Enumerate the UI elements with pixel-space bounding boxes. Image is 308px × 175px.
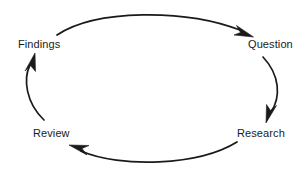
arrow-question-to-research bbox=[263, 57, 277, 123]
arrow-review-to-findings-path bbox=[27, 65, 44, 120]
arrow-research-to-review-path bbox=[81, 142, 237, 162]
node-label-research: Research bbox=[237, 127, 285, 140]
arrow-question-to-research-path bbox=[263, 57, 277, 112]
arrow-findings-to-question bbox=[57, 15, 254, 37]
arrow-review-to-findings bbox=[25, 53, 44, 120]
arrow-question-to-research-head bbox=[266, 105, 277, 124]
arrow-findings-to-question-head bbox=[234, 26, 254, 38]
cycle-arrows-group bbox=[0, 0, 308, 175]
node-label-review: Review bbox=[33, 127, 70, 140]
research-cycle-diagram: Findings Question Research Review bbox=[0, 0, 308, 175]
arrow-research-to-review bbox=[69, 142, 237, 162]
arrow-research-to-review-head bbox=[69, 145, 89, 155]
node-label-question: Question bbox=[248, 38, 293, 51]
node-label-findings: Findings bbox=[18, 38, 60, 51]
arrow-review-to-findings-head bbox=[25, 53, 36, 72]
arrow-findings-to-question-path bbox=[57, 15, 240, 35]
